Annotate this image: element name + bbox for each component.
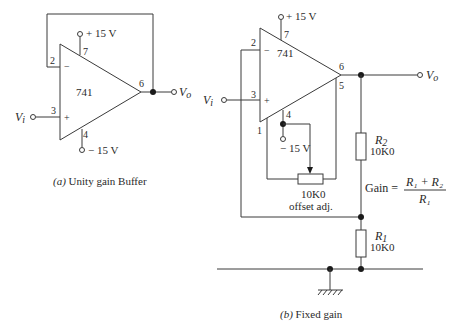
caption-b: (b) Fixed gain [280,308,343,321]
resistor-r1 [356,230,366,257]
pin-7-label: 7 [83,46,88,57]
offset-pin5-wire [323,78,336,179]
input-terminal-b [222,98,227,103]
input-voltage-label: Vi [15,110,25,125]
pot-value-label: 10K0 [301,188,326,200]
pin-1-label-b: 1 [257,125,262,136]
pot-wiper-arrow [307,167,313,174]
output-terminal [172,90,177,95]
vneg-terminal-b [281,137,286,142]
pin-6-label: 6 [139,78,144,89]
opamp-741-a [60,44,141,140]
supply-positive-label: + 15 V [86,27,117,39]
plus-sign: + [64,112,70,123]
pot-description-label: offset adj. [289,200,333,212]
opamp-label-b: 741 [277,47,294,59]
pin-6-label-b: 6 [339,61,344,72]
plus-sign-b: + [264,95,270,106]
output-junction-dot [150,89,156,95]
supply-negative-label: − 15 V [88,144,119,156]
pin-2-label-b: 2 [251,37,256,48]
gain-numerator: R₁ + R₂ [405,175,443,189]
supply-positive-label-b: + 15 V [286,10,317,22]
supply-negative-label-b: − 15 V [280,142,311,154]
pin-4-label-b: 4 [286,109,291,120]
offset-potentiometer [298,174,323,184]
minus-sign-b: − [264,45,270,56]
ground-rail-dot-right [358,266,364,272]
pin-5-label-b: 5 [339,80,344,91]
pin-4-label: 4 [83,129,88,140]
opamp-label: 741 [76,86,93,98]
unity-gain-buffer-circuit: 741 2 − 3 + 6 7 4 + 15 V − 15 V Vi Vo (a… [15,14,191,188]
vneg-terminal [80,148,85,153]
vpos-terminal-b [279,15,284,20]
r1-r2-junction-dot [358,214,364,220]
minus-sign: − [64,61,70,72]
op-amp-circuits-figure: 741 2 − 3 + 6 7 4 + 15 V − 15 V Vi Vo (a… [0,0,455,330]
r1-value-label: 10K0 [370,241,395,253]
gain-label: Gain = [365,181,398,195]
pin-3-label-b: 3 [251,89,256,100]
pin-3-label: 3 [51,105,56,116]
vpos-terminal [78,32,83,37]
output-terminal-b [418,73,423,78]
output-voltage-label-b: Vo [426,68,438,83]
output-voltage-label: Vo [179,85,191,100]
input-terminal [31,115,36,120]
pin-7-label-b: 7 [284,29,289,40]
resistor-r2 [356,133,366,160]
ground-icon [318,269,343,295]
fixed-gain-amplifier-circuit: 741 2 − 3 + 6 5 7 4 1 + 15 V − 15 V Vi V… [203,10,446,321]
input-voltage-label-b: Vi [203,93,213,108]
r2-value-label: 10K0 [370,145,395,157]
opamp-741-b [260,28,341,122]
caption-a: (a) Unity gain Buffer [53,175,147,188]
gain-denominator: R₁ [418,192,431,206]
pin-2-label: 2 [50,55,55,66]
